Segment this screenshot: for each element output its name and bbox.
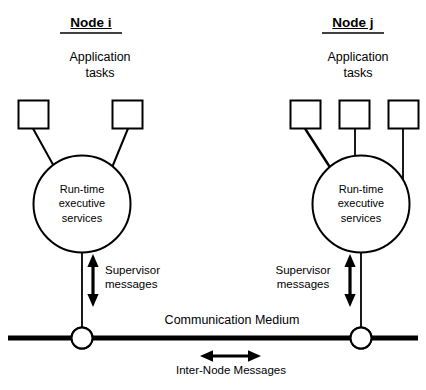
runtime-label-j-line-3: services [315, 211, 407, 225]
task-box-j-2[interactable] [340, 101, 370, 129]
supervisor-messages-label-i: Supervisor messages [105, 263, 195, 292]
supervisor-label-i-line-2: messages [105, 277, 195, 291]
communication-medium-label: Communication Medium [165, 313, 300, 328]
supervisor-label-j-line-2: messages [262, 277, 344, 291]
application-tasks-line-1: Application [35, 50, 165, 66]
task-box-i-1[interactable] [19, 101, 49, 129]
task-connector-i-2 [111, 129, 128, 171]
supervisor-label-i-line-1: Supervisor [105, 263, 195, 277]
task-box-i-2[interactable] [113, 101, 143, 129]
task-box-j-1[interactable] [291, 101, 321, 129]
application-tasks-line-2: tasks [293, 66, 423, 82]
supervisor-arrow-i [87, 254, 98, 307]
node-j-title: Node j [332, 15, 373, 31]
task-connector-i-1 [33, 129, 56, 171]
supervisor-label-j-line-1: Supervisor [262, 263, 344, 277]
internode-messages-label: Inter-Node Messages [176, 364, 286, 378]
runtime-label-j-line-2: executive [315, 196, 407, 210]
diagram-canvas: Node i Application tasks Run-time execut… [0, 0, 426, 390]
task-connector-j-1 [305, 129, 333, 173]
bus-tap-i-overlay[interactable] [72, 328, 93, 349]
runtime-label-j-line-1: Run-time [315, 182, 407, 196]
supervisor-arrow-j [344, 254, 355, 307]
bus-tap-j-overlay[interactable] [351, 328, 372, 349]
application-tasks-j-line-1: Application [293, 50, 423, 66]
application-tasks-label-j: Application tasks [293, 50, 423, 81]
supervisor-messages-label-j: Supervisor messages [262, 263, 344, 292]
task-box-j-3[interactable] [389, 101, 419, 129]
runtime-label-j: Run-time executive services [315, 182, 407, 225]
runtime-label-i: Run-time executive services [36, 182, 128, 225]
runtime-label-i-line-3: services [36, 211, 128, 225]
internode-arrow [200, 350, 261, 362]
runtime-label-i-line-1: Run-time [36, 182, 128, 196]
application-tasks-line-2: tasks [35, 66, 165, 82]
node-i-title: Node i [70, 15, 111, 31]
application-tasks-label-i: Application tasks [35, 50, 165, 81]
runtime-label-i-line-2: executive [36, 196, 128, 210]
